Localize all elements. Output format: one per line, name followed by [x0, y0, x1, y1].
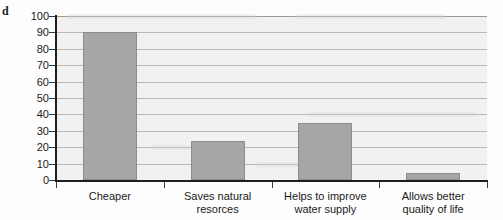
x-axis-tick-label-line: Allows better	[379, 190, 487, 203]
y-axis-line	[55, 15, 57, 181]
y-axis-tick	[49, 131, 55, 132]
x-axis-tick-label-line: Saves natural	[164, 190, 272, 203]
x-axis-tick-label-line: quality of life	[379, 203, 487, 216]
bar-series	[56, 16, 487, 180]
y-axis-tick-labels: 1009080706050403020100	[0, 0, 49, 220]
x-axis-tick	[272, 182, 273, 188]
x-axis-tick-label-line: resorces	[164, 203, 272, 216]
y-axis-tick-label: 30	[3, 126, 49, 137]
bar-slot	[164, 16, 272, 180]
x-axis-tick-label: Saves naturalresorces	[164, 190, 272, 216]
y-axis-tick-label: 70	[3, 60, 49, 71]
x-axis-tick-label: Allows betterquality of life	[379, 190, 487, 216]
y-axis-tick	[49, 180, 55, 181]
bar-slot	[272, 16, 380, 180]
bar	[191, 141, 245, 180]
y-axis-tick-label: 50	[3, 93, 49, 104]
y-axis-tick-label: 80	[3, 44, 49, 55]
x-axis-tick-label: Cheaper	[56, 190, 164, 203]
bar	[83, 32, 137, 180]
x-axis-tick-labels: CheaperSaves naturalresorcesHelps to imp…	[56, 190, 487, 220]
y-axis-tick-label: 90	[3, 27, 49, 38]
y-axis-tick-label: 20	[3, 142, 49, 153]
y-axis-tick	[49, 16, 55, 17]
x-axis-tick	[164, 182, 165, 188]
y-axis-tick	[49, 49, 55, 50]
bar	[298, 123, 352, 180]
x-axis-tick	[379, 182, 380, 188]
y-axis-tick	[49, 164, 55, 165]
plot-area	[56, 16, 487, 180]
y-axis-tick-label: 60	[3, 77, 49, 88]
y-axis-tick-label: 100	[3, 11, 49, 22]
x-axis-tick-label-line: Helps to improve	[272, 190, 380, 203]
bar-chart-figure: d 1009080706050403020100 CheaperSaves na…	[0, 0, 503, 220]
y-axis-tick	[49, 114, 55, 115]
y-axis-tick	[49, 147, 55, 148]
y-axis-tick-label: 10	[3, 159, 49, 170]
x-axis-tick	[56, 182, 57, 188]
x-axis-tick-label: Helps to improvewater supply	[272, 190, 380, 216]
y-axis-tick-label: 40	[3, 109, 49, 120]
bar-slot	[56, 16, 164, 180]
y-axis-tick	[49, 65, 55, 66]
y-axis-tick	[49, 32, 55, 33]
y-axis-tick	[49, 82, 55, 83]
x-axis-tick	[487, 182, 488, 188]
y-axis-tick-label: 0	[3, 175, 49, 186]
x-axis-tick-label-line: Cheaper	[56, 190, 164, 203]
bar-slot	[379, 16, 487, 180]
x-axis-tick-label-line: water supply	[272, 203, 380, 216]
y-axis-tick	[49, 98, 55, 99]
